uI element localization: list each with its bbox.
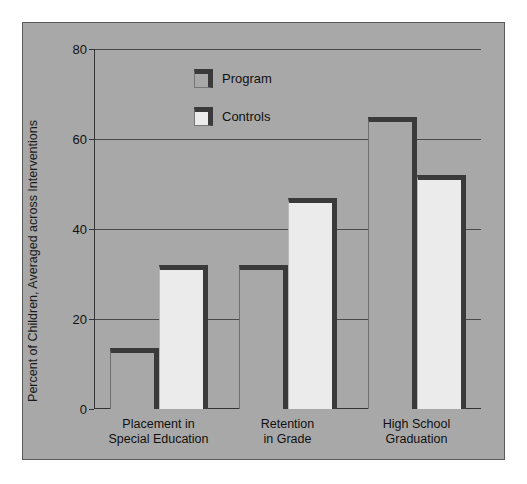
y-tick-mark [89, 49, 94, 50]
gridline [94, 49, 481, 50]
y-tick-label: 40 [73, 222, 87, 237]
y-axis-line [94, 49, 95, 409]
gridline [94, 139, 481, 140]
program-swatch-icon [194, 69, 213, 88]
y-tick-mark [89, 229, 94, 230]
y-tick-mark [89, 409, 94, 410]
bar-controls-1 [288, 198, 337, 410]
y-tick-mark [89, 319, 94, 320]
y-axis-title: Percent of Children, Averaged across Int… [23, 81, 43, 441]
legend-item-controls: Controls [194, 105, 272, 127]
chart-figure-frame: Percent of Children, Averaged across Int… [22, 22, 505, 460]
bar-controls-2 [417, 175, 466, 409]
y-tick-label: 80 [73, 42, 87, 57]
y-tick-label: 20 [73, 312, 87, 327]
legend-label-program: Program [222, 71, 272, 86]
plot-area: 020406080 Placement in Special Education… [94, 49, 481, 409]
x-tick-label: High School Graduation [383, 417, 450, 447]
y-tick-label: 60 [73, 132, 87, 147]
bar-controls-0 [159, 265, 208, 409]
x-tick-label: Placement in Special Education [108, 417, 208, 447]
bar-program-0 [110, 348, 159, 409]
chart-legend: Program Controls [194, 67, 272, 143]
controls-swatch-icon [194, 107, 213, 126]
y-tick-label: 0 [80, 402, 87, 417]
bar-program-1 [239, 265, 288, 409]
x-tick-label: Retention in Grade [261, 417, 315, 447]
legend-label-controls: Controls [222, 109, 270, 124]
bar-program-2 [368, 117, 417, 410]
legend-item-program: Program [194, 67, 272, 89]
y-tick-mark [89, 139, 94, 140]
